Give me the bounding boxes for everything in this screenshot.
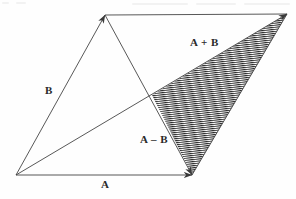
scan-artifact — [132, 3, 188, 5]
scan-artifact — [244, 3, 290, 5]
vector-b-line — [16, 15, 105, 175]
scan-artifact — [196, 3, 236, 5]
label-vector-b: B — [45, 85, 53, 96]
vector-a-plus-b-line — [16, 14, 287, 175]
label-vector-a-plus-b: A + B — [190, 37, 219, 48]
scan-artifact — [2, 2, 9, 4]
scan-artifact — [16, 2, 26, 4]
vector-diagram-figure: B A A + B A – B — [0, 0, 296, 199]
parallelogram-top-edge — [105, 14, 287, 15]
label-vector-a: A — [101, 179, 109, 190]
vector-diagram-canvas — [0, 0, 296, 199]
a-minus-b-shaded-triangle — [152, 14, 287, 175]
label-vector-a-minus-b: A – B — [140, 134, 168, 145]
